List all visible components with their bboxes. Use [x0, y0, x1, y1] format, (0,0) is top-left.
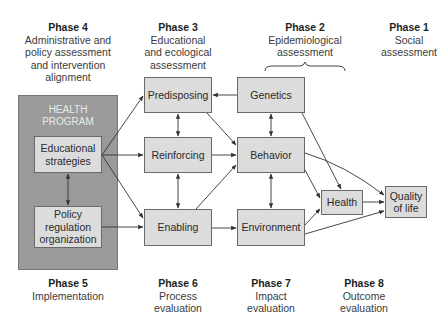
reinforcing-box: Reinforcing	[144, 137, 212, 173]
phase-description: Educational and ecological assessment	[130, 34, 226, 72]
phase-title: Phase 7	[231, 277, 311, 290]
phase-description: Impact evaluation	[231, 290, 311, 315]
phase-description: Social assessment	[370, 34, 448, 59]
phase-description: Administrative and policy assessment and…	[0, 34, 136, 84]
phase-title: Phase 5	[18, 277, 118, 290]
phase-2-label: Phase 2 Epidemiological assessment	[253, 21, 357, 59]
phase-title: Phase 2	[253, 21, 357, 34]
phase-title: Phase 3	[130, 21, 226, 34]
phase-2-brace	[265, 62, 345, 71]
genetics-box: Genetics	[237, 77, 305, 113]
phase-description: Outcome evaluation	[324, 290, 404, 315]
behavior-box: Behavior	[237, 137, 305, 173]
quality-of-life-box: Quality of life	[385, 186, 427, 218]
policy-regulation-organization-box: Policy regulation organization	[34, 206, 102, 248]
phase-8-label: Phase 8 Outcome evaluation	[324, 277, 404, 315]
health-program-title: HEALTH PROGRAM	[19, 104, 117, 128]
health-box: Health	[321, 190, 363, 215]
phase-description: Implementation	[18, 290, 118, 303]
phase-1-label: Phase 1 Social assessment	[370, 21, 448, 59]
phase-title: Phase 8	[324, 277, 404, 290]
phase-title: Phase 4	[0, 21, 136, 34]
educational-strategies-box: Educational strategies	[34, 136, 102, 173]
phase-3-label: Phase 3 Educational and ecological asses…	[130, 21, 226, 71]
phase-5-label: Phase 5 Implementation	[18, 277, 118, 302]
enabling-box: Enabling	[144, 209, 212, 246]
phase-title: Phase 1	[370, 21, 448, 34]
environment-box: Environment	[237, 209, 305, 246]
phase-description: Process evaluation	[138, 290, 218, 315]
predisposing-box: Predisposing	[144, 77, 212, 113]
phase-title: Phase 6	[138, 277, 218, 290]
phase-7-label: Phase 7 Impact evaluation	[231, 277, 311, 315]
phase-6-label: Phase 6 Process evaluation	[138, 277, 218, 315]
phase-description: Epidemiological assessment	[253, 34, 357, 59]
phase-4-label: Phase 4 Administrative and policy assess…	[0, 21, 136, 84]
